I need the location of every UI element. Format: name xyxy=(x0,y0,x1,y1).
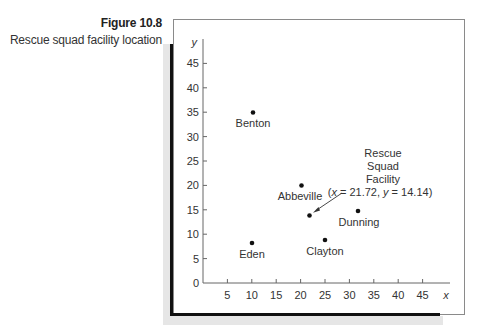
y-tick-label: 40 xyxy=(187,82,199,94)
label-benton: Benton xyxy=(236,117,271,129)
y-tick-label: 35 xyxy=(187,106,199,118)
y-axis-label: y xyxy=(191,36,199,48)
point-benton xyxy=(251,110,256,115)
y-tick-label: 30 xyxy=(187,131,199,143)
y-tick-label: 45 xyxy=(187,57,199,69)
y-tick-label: 15 xyxy=(187,204,199,216)
x-tick-label: 25 xyxy=(319,289,331,301)
label-abbeville: Abbeville xyxy=(278,190,323,202)
x-axis-label: x xyxy=(442,289,449,301)
x-ticks xyxy=(227,279,422,283)
point-eden xyxy=(250,241,255,246)
point-rescue-facility xyxy=(307,213,312,218)
label-eden: Eden xyxy=(239,248,265,260)
scatter-plot: 0 5 10 15 20 25 30 35 40 45 y 5 10 15 20… xyxy=(0,0,487,332)
y-ticks xyxy=(203,63,207,258)
x-tick-labels: 5 10 15 20 25 30 35 40 45 xyxy=(224,289,428,301)
y-tick-label: 5 xyxy=(193,253,199,265)
x-tick-label: 15 xyxy=(270,289,282,301)
y-tick-labels: 0 5 10 15 20 25 30 35 40 45 xyxy=(187,57,199,289)
y-tick-label: 10 xyxy=(187,228,199,240)
annotation-line-2: Squad xyxy=(367,160,399,172)
label-clayton: Clayton xyxy=(306,245,343,257)
x-tick-label: 5 xyxy=(224,289,230,301)
x-tick-label: 10 xyxy=(246,289,258,301)
x-tick-label: 40 xyxy=(392,289,404,301)
x-tick-label: 35 xyxy=(368,289,380,301)
annotation-line-1: Rescue xyxy=(364,147,401,159)
annotation-coords: (x = 21.72, y = 14.14) xyxy=(328,186,433,198)
x-tick-label: 45 xyxy=(416,289,428,301)
y-tick-label: 25 xyxy=(187,155,199,167)
annotation-line-3: Facility xyxy=(366,173,401,185)
y-tick-label: 20 xyxy=(187,179,199,191)
y-tick-label: 0 xyxy=(193,277,199,289)
point-dunning xyxy=(356,209,361,214)
label-dunning: Dunning xyxy=(339,216,380,228)
point-abbeville xyxy=(299,183,304,188)
x-tick-label: 30 xyxy=(343,289,355,301)
facility-annotation: Rescue Squad Facility (x = 21.72, y = 14… xyxy=(328,147,433,198)
point-clayton xyxy=(323,238,328,243)
x-tick-label: 20 xyxy=(294,289,306,301)
